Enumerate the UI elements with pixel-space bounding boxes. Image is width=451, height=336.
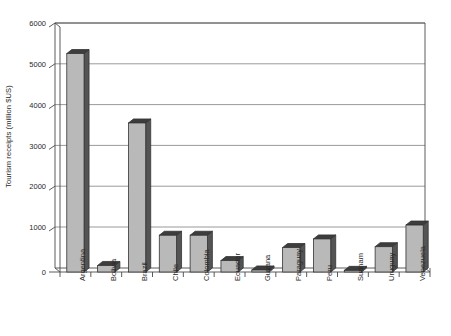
x-axis-category-label: Chile — [171, 264, 180, 281]
bar-front-face — [67, 54, 84, 272]
x-axis-category-label: Venezuela — [418, 246, 427, 281]
x-axis-category-label: Surinam — [356, 253, 365, 281]
x-axis-category-label: Peru — [325, 265, 334, 281]
y-axis-tick-label: 3000 — [16, 142, 46, 151]
bar-front-face — [128, 123, 145, 272]
x-axis-category-label: Paraguay — [294, 249, 303, 281]
ytick-4000 — [49, 105, 55, 109]
y-axis-tick-label: 0 — [16, 268, 46, 277]
x-axis-category-label: Uruguay — [387, 253, 396, 281]
y-axis-tick-label: 6000 — [16, 19, 46, 28]
plot-area — [0, 0, 451, 336]
y-axis-tick-label: 2000 — [16, 182, 46, 191]
bar — [67, 50, 89, 272]
x-axis-category-label: Bolivia — [109, 259, 118, 281]
y-axis-tick-label: 4000 — [16, 101, 46, 110]
x-axis-category-label: Brazil — [140, 262, 149, 281]
ytick-6000 — [49, 23, 55, 27]
ytick-1000 — [49, 227, 55, 231]
x-axis-category-label: Ecuador — [233, 253, 242, 281]
y-axis-tick-label: 1000 — [16, 223, 46, 232]
y-axis-tick-label: 5000 — [16, 60, 46, 69]
chart-container: Tourism receipts (million $US) — [0, 0, 451, 336]
bar — [128, 119, 150, 272]
x-axis-category-label: Colombia — [202, 249, 211, 281]
ytick-2000 — [49, 186, 55, 190]
x-axis-category-label: Guyana — [263, 255, 272, 281]
x-axis-category-label: Argentina — [78, 249, 87, 281]
ytick-5000 — [49, 64, 55, 68]
ytick-3000 — [49, 145, 55, 149]
bar-side-face — [146, 119, 151, 272]
bar-side-face — [84, 50, 89, 272]
plot-left-wall — [55, 23, 60, 272]
